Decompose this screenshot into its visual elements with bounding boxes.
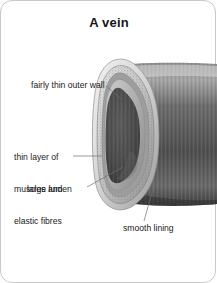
label-smooth-lining: smooth lining [123, 223, 174, 234]
label-outer-wall: fairly thin outer wall [31, 80, 105, 91]
diagram-card: A vein [0, 0, 216, 283]
label-large-lumen: large lumen [27, 184, 72, 195]
label-muscle-line-3: elastic fibres [14, 216, 62, 227]
label-muscle-line-1: thin layer of [14, 152, 62, 163]
